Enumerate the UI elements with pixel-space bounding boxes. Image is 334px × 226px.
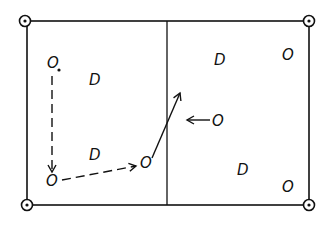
label-o2: O — [46, 172, 58, 190]
label-d1: D — [89, 71, 101, 89]
small-dot-marker — [57, 68, 60, 71]
market-areas-diagram: ODDOODOODO — [0, 0, 334, 226]
label-o4: O — [282, 46, 294, 64]
corner-marker-bottom-right — [304, 200, 315, 211]
outer-boundary — [27, 21, 309, 205]
label-d3: D — [214, 51, 226, 69]
label-d2: D — [89, 146, 101, 164]
frame — [27, 21, 309, 205]
corner-marker-bottom-left — [22, 200, 33, 211]
corner-marker-top-left — [20, 16, 31, 27]
corner-marker-top-right — [304, 16, 315, 27]
labels: ODDOODOODO — [46, 46, 294, 196]
arrow-o2-to-o3 — [62, 166, 136, 180]
label-o3: O — [140, 154, 152, 172]
arrow-o3-across-divider — [152, 93, 180, 158]
label-d4: D — [237, 161, 249, 179]
label-o1: O — [47, 54, 59, 72]
arrows — [52, 76, 210, 180]
label-o5: O — [212, 112, 224, 130]
label-o6: O — [282, 178, 294, 196]
